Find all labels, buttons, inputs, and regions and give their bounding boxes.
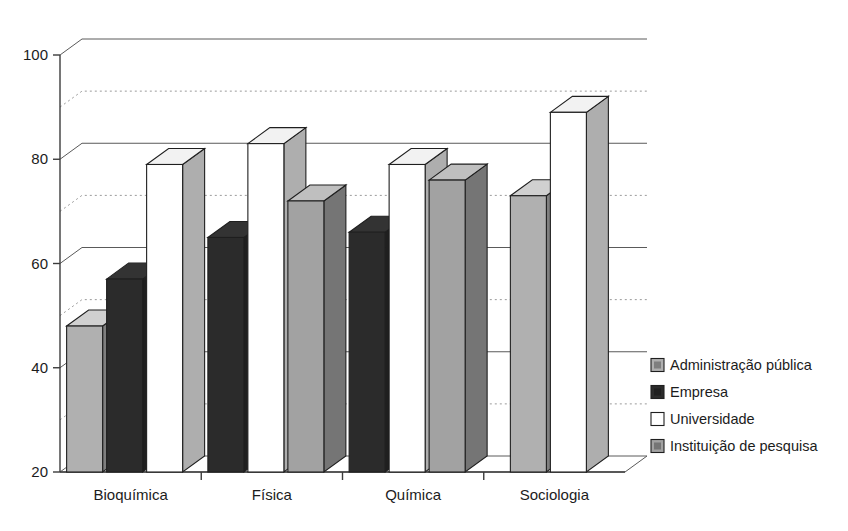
bar-química-institui-o-de-pesquisa (429, 164, 487, 472)
bar-side-face (586, 96, 608, 472)
bar-front-face (67, 326, 103, 472)
bar-front-face (107, 279, 143, 472)
legend-label: Administração pública (670, 357, 813, 373)
legend-swatch-inner (654, 443, 661, 450)
bar-física-institui-o-de-pesquisa (288, 185, 346, 472)
bar-bioquímica-universidade (147, 148, 205, 472)
x-label-sociologia: Sociologia (520, 486, 590, 503)
y-tick-label-60: 60 (31, 255, 48, 272)
y-tick-label-40: 40 (31, 359, 48, 376)
x-label-física: Física (252, 486, 293, 503)
legend-item-administra-o-p-blica[interactable]: Administração pública (651, 357, 813, 373)
y-tick-label-80: 80 (31, 150, 48, 167)
x-label-química: Química (385, 486, 442, 503)
bar-side-face (183, 148, 205, 472)
legend-label: Instituição de pesquisa (670, 438, 818, 454)
bar-front-face (147, 164, 183, 472)
bar-front-face (389, 164, 425, 472)
legend-item-empresa[interactable]: Empresa (651, 384, 729, 400)
legend-swatch-inner (654, 362, 661, 369)
bar-side-face (465, 164, 487, 472)
bar-front-face (288, 201, 324, 472)
legend-label: Empresa (670, 384, 729, 400)
bar-front-face (208, 237, 244, 472)
x-label-bioquímica: Bioquímica (94, 486, 169, 503)
legend-label: Universidade (670, 411, 755, 427)
bar-side-face (324, 185, 346, 472)
chart-container: 20406080100 BioquímicaFísicaQuímicaSocio… (0, 0, 848, 531)
bar-front-face (429, 180, 465, 472)
bar-front-face (550, 112, 586, 472)
y-tick-label-20: 20 (31, 463, 48, 480)
grouped-bar-chart-3d: 20406080100 BioquímicaFísicaQuímicaSocio… (0, 0, 848, 531)
bar-sociologia-universidade (550, 96, 608, 472)
bar-front-face (510, 196, 546, 472)
bar-front-face (248, 144, 284, 472)
y-tick-label-100: 100 (23, 46, 48, 63)
legend-item-institui-o-de-pesquisa[interactable]: Instituição de pesquisa (651, 438, 818, 454)
legend-swatch (651, 413, 664, 426)
legend-swatch-inner (654, 389, 661, 396)
bar-front-face (349, 232, 385, 472)
